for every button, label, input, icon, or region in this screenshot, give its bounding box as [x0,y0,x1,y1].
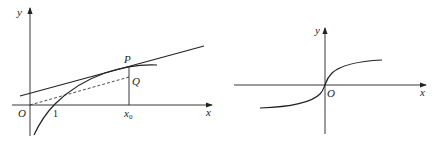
point-q-label: Q [132,75,140,87]
left-x-label: x [205,106,211,118]
right-y-label: y [314,24,320,36]
right-figure: y x O [234,24,426,134]
tick-one-label: 1 [53,108,58,119]
x0-subscript: 0 [129,113,133,121]
right-origin-label: O [327,87,335,99]
tangent-line [20,46,204,96]
point-p-label: P [123,53,131,65]
left-y-label: y [16,6,22,18]
right-x-label: x [419,86,425,98]
left-origin-label: O [18,107,26,119]
dashed-oq [30,77,129,105]
left-figure: y x O 1 x 0 P Q [12,6,212,136]
s-curve [260,60,382,108]
figure-canvas: y x O 1 x 0 P Q y x O [0,0,434,147]
